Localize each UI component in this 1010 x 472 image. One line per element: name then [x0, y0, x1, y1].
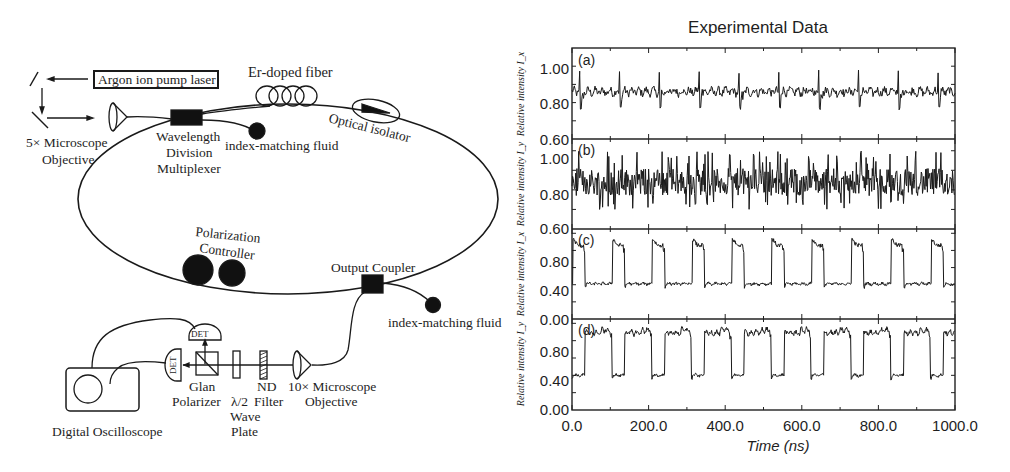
label-nd-2: Filter	[254, 394, 284, 409]
svg-text:0.80: 0.80	[540, 253, 569, 270]
cable-top-det	[92, 319, 195, 368]
svg-text:200.0: 200.0	[630, 417, 668, 434]
svg-text:1.00: 1.00	[540, 150, 569, 167]
trace-d	[572, 327, 955, 381]
label-wdm-3: Multiplexer	[157, 161, 221, 176]
wdm-block	[171, 110, 202, 125]
svg-text:0.80: 0.80	[540, 186, 569, 203]
svg-text:1000.0: 1000.0	[932, 417, 978, 434]
label-objective-10x-1: 10× Microscope	[288, 379, 376, 394]
svg-text:0.00: 0.00	[540, 401, 569, 418]
index-matching-fluid-bottom	[426, 298, 441, 313]
svg-text:600.0: 600.0	[783, 417, 821, 434]
label-oscilloscope: Digital Oscilloscope	[52, 424, 163, 439]
setup-diagram	[30, 71, 498, 411]
mirror-top-icon	[30, 72, 38, 86]
fiber-ring	[78, 104, 498, 294]
label-objective-10x-2: Objective	[305, 394, 357, 409]
svg-text:Relative intensity I_x: Relative intensity I_x	[515, 51, 526, 137]
svg-text:Relative intensity I_x: Relative intensity I_x	[515, 231, 526, 317]
oscilloscope-screen-icon	[74, 375, 102, 403]
output-coupler-block	[362, 275, 383, 293]
label-waveplate-1: λ/2	[231, 394, 248, 409]
svg-text:0.60: 0.60	[540, 220, 569, 237]
label-argon-laser: Argon ion pump laser	[98, 72, 216, 87]
svg-text:0.60: 0.60	[540, 131, 569, 148]
arrowhead-icon	[48, 77, 54, 81]
label-output-coupler: Output Coupler	[331, 260, 416, 275]
fiber-coupler-to-index	[383, 283, 430, 302]
label-waveplate-3: Plate	[231, 424, 258, 439]
svg-text:400.0: 400.0	[706, 417, 744, 434]
arrowhead-icon	[40, 107, 44, 113]
chart-title: Experimental Data	[688, 18, 828, 37]
label-det-left: DET	[168, 356, 178, 374]
er-fiber-coil-icon	[256, 86, 317, 106]
svg-text:0.40: 0.40	[540, 372, 569, 389]
svg-text:Relative intensity I_y: Relative intensity I_y	[515, 321, 526, 407]
svg-text:0.80: 0.80	[540, 343, 569, 360]
y-axis-labels: Relative intensity I_x Relative intensit…	[515, 51, 526, 407]
arrowhead-icon	[87, 116, 93, 120]
label-index-fluid-bottom: index-matching fluid	[388, 315, 502, 330]
arrowhead-icon	[203, 340, 207, 345]
y-tick-labels: 1.00 0.80 0.60 1.00 0.80 0.80 0.60 0.80 …	[540, 60, 569, 418]
diagram-labels: Argon ion pump laser Er-doped fiber 5× M…	[26, 64, 502, 439]
polarization-paddle-2	[219, 260, 245, 286]
arrowhead-icon	[184, 363, 189, 367]
chart: Experimental Data (a) (b) (c) (d) 1.00 0…	[515, 18, 978, 454]
glan-polarizer-diagonal	[196, 352, 218, 375]
label-nd-1: ND	[257, 379, 277, 394]
svg-text:800.0: 800.0	[860, 417, 898, 434]
svg-text:0.40: 0.40	[540, 282, 569, 299]
trace-c	[572, 238, 955, 288]
svg-text:0.0: 0.0	[562, 417, 583, 434]
svg-text:Relative intensity I_y: Relative intensity I_y	[515, 141, 526, 227]
objective-5x-lens	[109, 103, 117, 131]
label-wdm-2: Division	[166, 145, 213, 160]
trace-a	[572, 70, 955, 110]
x-axis-label: Time (ns)	[746, 437, 809, 454]
panel-label-a: (a)	[578, 52, 595, 68]
isolator-arrow-icon	[362, 104, 390, 113]
panel-label-d: (d)	[578, 322, 595, 338]
panel-label-b: (b)	[578, 142, 595, 158]
label-waveplate-2: Wave	[230, 409, 260, 424]
fiber-coupler-to-objective	[312, 292, 365, 365]
objective-5x-cone	[113, 103, 127, 131]
svg-text:0.00: 0.00	[540, 311, 569, 328]
x-tick-labels: 0.0 200.0 400.0 600.0 800.0 1000.0	[562, 417, 978, 434]
label-index-fluid-top: index-matching fluid	[225, 138, 339, 153]
objective-10x-cone	[297, 351, 311, 379]
fiber-objective-to-wdm	[127, 117, 172, 119]
label-glan-1: Glan	[189, 379, 215, 394]
traces	[572, 70, 955, 380]
trace-b	[572, 151, 954, 209]
svg-text:1.00: 1.00	[540, 60, 569, 77]
figure: Argon ion pump laser Er-doped fiber 5× M…	[0, 0, 1010, 472]
label-glan-2: Polarizer	[172, 394, 221, 409]
label-det-top: DET	[191, 329, 209, 339]
label-objective-5x-2: Objective	[42, 152, 94, 167]
mirror-bottom-icon	[32, 112, 48, 128]
objective-10x-lens	[293, 351, 301, 379]
polarization-paddle-1	[183, 255, 213, 285]
panel-label-c: (c)	[578, 232, 594, 248]
label-wdm-1: Wavelength	[156, 129, 220, 144]
index-matching-fluid-top	[249, 123, 265, 139]
label-er-fiber: Er-doped fiber	[248, 64, 333, 80]
svg-text:0.80: 0.80	[540, 95, 569, 112]
cable-left-det	[110, 362, 166, 384]
label-objective-5x: 5× Microscope	[26, 135, 107, 150]
